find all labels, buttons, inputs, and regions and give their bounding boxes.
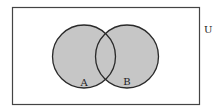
venn-diagram: A B U [0,0,217,110]
set-a-label: A [79,77,88,88]
set-b-label: B [123,76,130,87]
universe-label: U [204,24,212,35]
